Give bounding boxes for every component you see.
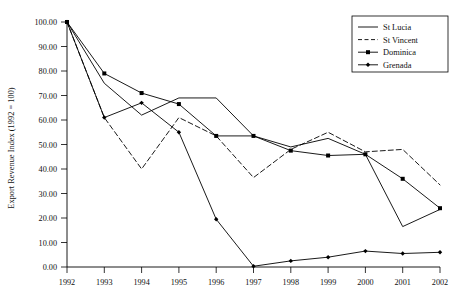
data-point-marker xyxy=(252,134,256,138)
x-tick-label: 1992 xyxy=(59,278,75,287)
y-axis-ticks: 0.0010.0020.0030.0040.0050.0060.0070.008… xyxy=(34,18,67,272)
y-tick-label: 70.00 xyxy=(39,92,57,101)
data-point-marker xyxy=(401,177,405,181)
x-tick-label: 1999 xyxy=(320,278,336,287)
legend-item-label: Dominica xyxy=(383,48,416,57)
x-tick-label: 1998 xyxy=(283,278,299,287)
export-revenue-index-line-chart: Export Revenue Index (1992 = 100) 0.0010… xyxy=(0,0,453,303)
x-tick-label: 1996 xyxy=(208,278,224,287)
legend-swatch-marker xyxy=(366,50,370,54)
x-tick-label: 1993 xyxy=(96,278,112,287)
y-tick-label: 10.00 xyxy=(39,239,57,248)
data-point-marker xyxy=(326,255,330,259)
data-point-marker xyxy=(102,71,106,75)
data-point-marker xyxy=(177,102,181,106)
data-point-marker xyxy=(401,251,405,255)
y-tick-label: 0.00 xyxy=(43,263,57,272)
chart-legend: St LuciaSt VincentDominicaGrenada xyxy=(352,16,448,72)
y-axis-title-group: Export Revenue Index (1992 = 100) xyxy=(7,87,16,208)
data-point-marker xyxy=(214,134,218,138)
y-tick-label: 40.00 xyxy=(39,165,57,174)
data-point-marker xyxy=(326,154,330,158)
x-tick-label: 2002 xyxy=(432,278,448,287)
y-tick-label: 80.00 xyxy=(39,67,57,76)
y-tick-label: 30.00 xyxy=(39,190,57,199)
x-tick-label: 2000 xyxy=(357,278,373,287)
y-tick-label: 20.00 xyxy=(39,214,57,223)
x-tick-label: 1994 xyxy=(133,278,149,287)
legend-item-label: St Lucia xyxy=(383,23,411,32)
y-tick-label: 90.00 xyxy=(39,43,57,52)
x-tick-label: 2001 xyxy=(395,278,411,287)
x-tick-label: 1997 xyxy=(245,278,261,287)
y-tick-label: 50.00 xyxy=(39,141,57,150)
data-point-marker xyxy=(438,250,442,254)
legend-item-label: Grenada xyxy=(383,61,412,70)
x-tick-label: 1995 xyxy=(171,278,187,287)
data-point-marker xyxy=(140,91,144,95)
data-point-marker xyxy=(289,149,293,153)
data-point-marker xyxy=(438,206,442,210)
chart-container: Export Revenue Index (1992 = 100) 0.0010… xyxy=(0,0,453,303)
legend-item-label: St Vincent xyxy=(383,36,419,45)
y-tick-label: 60.00 xyxy=(39,116,57,125)
y-axis-title: Export Revenue Index (1992 = 100) xyxy=(7,87,16,208)
x-axis-ticks: 1992199319941995199619971998199920002001… xyxy=(59,267,448,287)
data-point-marker xyxy=(289,259,293,263)
y-tick-label: 100.00 xyxy=(34,18,57,27)
data-point-marker xyxy=(363,152,367,156)
data-point-marker xyxy=(363,249,367,253)
